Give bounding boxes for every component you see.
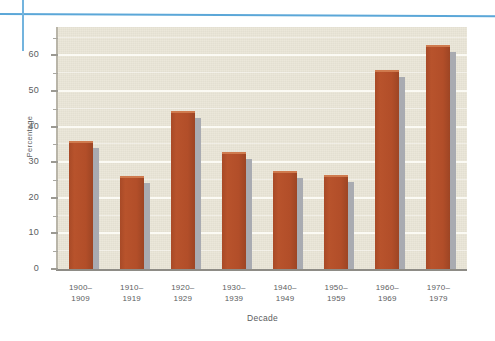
decorative-vertical-rule [22, 0, 24, 51]
x-axis-tick-label-line: 1930– [206, 282, 262, 293]
bar-fill [171, 111, 195, 269]
y-axis-tick [51, 90, 58, 92]
x-axis-tick-label-line: 1940– [257, 282, 313, 293]
bar [375, 70, 405, 269]
y-axis-tick [51, 54, 58, 56]
bar-top-highlight [273, 171, 297, 173]
gridline-minor [58, 108, 467, 109]
x-axis-tick-label-line: 1959 [308, 293, 364, 304]
x-axis-tick-label: 1960–1969 [359, 282, 415, 304]
y-axis-minor-tick [53, 251, 58, 252]
x-axis-tick-label-line: 1909 [53, 293, 109, 304]
bar [273, 171, 303, 269]
gridline-minor [58, 143, 467, 144]
bar [171, 111, 201, 269]
x-axis-tick-label-line: 1910– [104, 282, 160, 293]
bar-top-highlight [222, 152, 246, 154]
y-axis-tick-label: 0 [0, 264, 39, 273]
bar-top-highlight [375, 70, 399, 72]
bar-fill [375, 70, 399, 269]
bar-top-highlight [171, 111, 195, 113]
gridline [58, 126, 467, 128]
x-axis-tick-label: 1940–1949 [257, 282, 313, 304]
bar-fill [120, 176, 144, 269]
decorative-horizontal-rule [0, 13, 495, 17]
bar-top-highlight [324, 175, 348, 177]
bar [426, 45, 456, 269]
x-axis-title: Decade [58, 313, 467, 323]
y-axis-tick [51, 126, 58, 128]
gridline-minor [58, 72, 467, 73]
bar-fill [69, 141, 93, 269]
bar [324, 175, 354, 269]
y-axis-minor-tick [53, 38, 58, 39]
bar-top-highlight [120, 176, 144, 178]
x-axis-tick-label-line: 1979 [410, 293, 466, 304]
x-axis-tick-label-line: 1949 [257, 293, 313, 304]
x-axis-tick-label: 1930–1939 [206, 282, 262, 304]
y-axis-tick-label: 60 [0, 50, 39, 59]
y-axis-tick-label: 50 [0, 86, 39, 95]
bar [120, 176, 150, 269]
x-axis-tick-label-line: 1969 [359, 293, 415, 304]
y-axis-tick-label: 20 [0, 193, 39, 202]
x-axis-tick-label-line: 1970– [410, 282, 466, 293]
y-axis-minor-tick [53, 180, 58, 181]
y-axis-tick-label: 10 [0, 228, 39, 237]
y-axis-minor-tick [53, 73, 58, 74]
x-axis-tick-label-line: 1920– [155, 282, 211, 293]
x-axis-tick-label-line: 1900– [53, 282, 109, 293]
y-axis-tick [51, 268, 58, 270]
y-axis-tick [51, 232, 58, 234]
x-axis-tick-label: 1920–1929 [155, 282, 211, 304]
bar-fill [324, 175, 348, 269]
bar [222, 152, 252, 269]
bar-top-highlight [426, 45, 450, 47]
x-axis-line [56, 269, 467, 271]
y-axis-tick [51, 197, 58, 199]
x-axis-tick-label: 1900–1909 [53, 282, 109, 304]
gridline [58, 54, 467, 56]
bar-fill [426, 45, 450, 269]
bar-fill [222, 152, 246, 269]
x-axis-tick-label: 1910–1919 [104, 282, 160, 304]
x-axis-tick-label-line: 1960– [359, 282, 415, 293]
y-axis-minor-tick [53, 144, 58, 145]
y-axis-minor-tick [53, 109, 58, 110]
x-axis-tick-label-line: 1929 [155, 293, 211, 304]
plot-area [58, 27, 467, 269]
bar-fill [273, 171, 297, 269]
gridline-minor [58, 37, 467, 38]
x-axis-tick-label: 1950–1959 [308, 282, 364, 304]
gridline [58, 161, 467, 163]
gridline [58, 90, 467, 92]
bar [69, 141, 99, 269]
y-axis-minor-tick [53, 216, 58, 217]
x-axis-tick-label: 1970–1979 [410, 282, 466, 304]
x-axis-tick-label-line: 1939 [206, 293, 262, 304]
y-axis-title: Percentage [25, 102, 34, 172]
bar-chart-figure: 0102030405060 Percentage 1900–19091910–1… [0, 0, 495, 341]
x-axis-tick-label-line: 1919 [104, 293, 160, 304]
y-axis-tick [51, 161, 58, 163]
x-axis-tick-label-line: 1950– [308, 282, 364, 293]
bar-top-highlight [69, 141, 93, 143]
